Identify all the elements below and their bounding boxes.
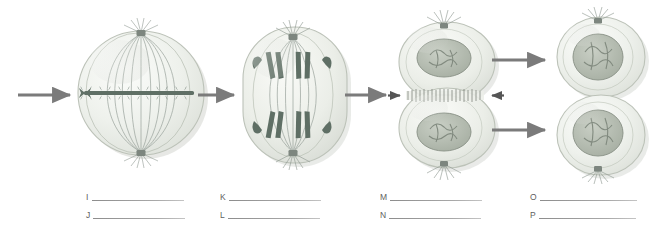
answer-line-j[interactable] xyxy=(93,218,185,219)
centrosome xyxy=(594,166,602,172)
answer-row-l[interactable]: L xyxy=(220,211,320,220)
answer-row-j[interactable]: J xyxy=(86,211,185,220)
answer-letter-l: L xyxy=(220,211,228,220)
centrosome-top xyxy=(440,23,448,29)
answer-letter-m: M xyxy=(380,193,390,202)
diagram-canvas xyxy=(0,0,661,241)
answer-letter-k: K xyxy=(220,193,229,202)
answer-row-o[interactable]: O xyxy=(530,193,637,202)
answer-line-l[interactable] xyxy=(228,218,320,219)
daughter-cell-top xyxy=(557,7,649,101)
centrosome xyxy=(594,18,602,24)
centrosome-top xyxy=(289,34,298,40)
answer-letter-i: I xyxy=(86,193,92,202)
answer-line-m[interactable] xyxy=(390,200,482,201)
answer-letter-o: O xyxy=(530,193,540,202)
answer-line-i[interactable] xyxy=(92,200,184,201)
daughter-cell-bottom xyxy=(557,95,649,184)
answer-letter-p: P xyxy=(530,211,539,220)
answer-line-n[interactable] xyxy=(389,218,481,219)
answer-row-i[interactable]: I xyxy=(86,193,184,202)
metaphase-cell xyxy=(78,18,208,168)
answer-row-k[interactable]: K xyxy=(220,193,321,202)
answer-line-k[interactable] xyxy=(229,200,321,201)
answer-row-n[interactable]: N xyxy=(380,211,481,220)
centrosome-top xyxy=(137,30,146,36)
answer-letter-n: N xyxy=(380,211,389,220)
answer-line-p[interactable] xyxy=(539,218,636,219)
centrosome-bottom xyxy=(289,150,298,156)
centrosome-bottom xyxy=(440,161,448,167)
anaphase-cell xyxy=(243,20,351,170)
telophase-cytokinesis-cell xyxy=(399,10,499,180)
answer-line-o[interactable] xyxy=(540,200,637,201)
answer-row-m[interactable]: M xyxy=(380,193,482,202)
answer-letter-j: J xyxy=(86,211,93,220)
mitosis-diagram: I J K L M N O P xyxy=(0,0,661,241)
centrosome-bottom xyxy=(137,150,146,156)
daughter-cells xyxy=(557,7,649,184)
answer-row-p[interactable]: P xyxy=(530,211,636,220)
